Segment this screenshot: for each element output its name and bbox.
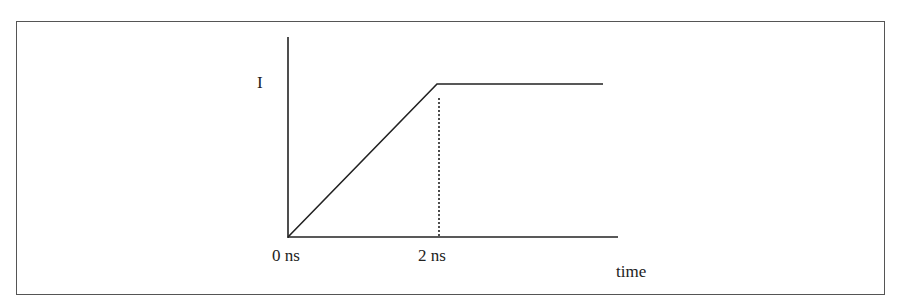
x-axis-label: time <box>616 262 646 282</box>
y-axis-label: I <box>257 73 263 93</box>
tick-label-0ns: 0 ns <box>272 246 300 266</box>
tick-label-2ns: 2 ns <box>418 246 446 266</box>
current-waveform <box>288 84 603 237</box>
current-ramp-diagram <box>0 0 905 307</box>
